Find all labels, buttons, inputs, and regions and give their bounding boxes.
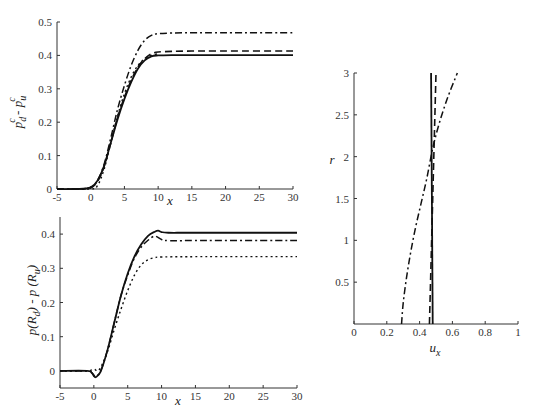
plot-top-left: -505101520253000.10.20.30.40.5	[38, 16, 299, 203]
x-tick-label: 20	[224, 390, 236, 402]
x-tick-label: -5	[55, 390, 65, 402]
x-tick-label: 0.8	[478, 326, 492, 338]
right-ylabel: r	[329, 152, 335, 167]
plot-right: 00.20.40.60.810.511.522.53	[335, 67, 521, 338]
plot-bottom-left: -505101520253000.10.20.30.4	[41, 217, 303, 402]
x-tick-label: 30	[292, 390, 304, 402]
y-tick-label: 0.3	[41, 262, 55, 274]
x-tick-label: -5	[52, 191, 62, 203]
axis-frame	[57, 22, 293, 189]
x-tick-label: 15	[190, 390, 202, 402]
y-tick-label: 2.5	[335, 109, 349, 121]
series-dotted	[57, 54, 158, 190]
y-tick-label: 0.2	[38, 116, 52, 128]
svg-text:p(Rd) - p (Ru): p(Rd) - p (Ru)	[24, 265, 42, 336]
x-tick-label: 10	[153, 191, 165, 203]
svg-text:pdc - puc: pdc - puc	[6, 96, 28, 129]
y-tick-label: 0	[47, 183, 53, 195]
x-tick-label: 25	[254, 191, 266, 203]
y-tick-label: 0.3	[38, 83, 52, 95]
y-tick-label: 0.1	[38, 150, 52, 162]
x-tick-label: 1	[515, 326, 521, 338]
y-tick-label: 0.4	[38, 49, 52, 61]
y-tick-label: 1.5	[335, 193, 349, 205]
top-left-ylabel: pdc - puc	[6, 96, 28, 129]
x-tick-label: 0.2	[380, 326, 394, 338]
x-tick-label: 0	[91, 390, 97, 402]
y-tick-label: 0.4	[41, 228, 55, 240]
x-tick-label: 0.6	[446, 326, 460, 338]
series-dotted	[60, 257, 297, 371]
bottom-left-ylabel: p(Rd) - p (Ru)	[24, 265, 42, 336]
series-dash-dot	[402, 73, 458, 324]
top-left-xlabel: x	[166, 193, 173, 208]
y-tick-label: 0.1	[41, 331, 55, 343]
x-tick-label: 0.4	[413, 326, 427, 338]
x-tick-label: 30	[288, 191, 300, 203]
figure: -505101520253000.10.20.30.40.5 -50510152…	[0, 0, 535, 419]
y-tick-label: 0	[50, 365, 56, 377]
y-tick-label: 2	[344, 151, 350, 163]
x-tick-label: 20	[220, 191, 232, 203]
right-xlabel: ux	[430, 340, 442, 358]
y-tick-label: 1	[344, 234, 350, 246]
y-tick-label: 0.5	[38, 16, 52, 28]
y-tick-label: 0.5	[335, 276, 349, 288]
x-tick-label: 15	[186, 191, 198, 203]
x-tick-label: 10	[156, 390, 168, 402]
series-solid	[57, 55, 293, 189]
series-dash-dot	[57, 33, 293, 189]
bottom-left-xlabel: x	[174, 393, 181, 408]
y-tick-label: 0.2	[41, 297, 55, 309]
x-tick-label: 25	[258, 390, 270, 402]
x-tick-label: 5	[122, 191, 128, 203]
series-dashed	[57, 51, 293, 189]
x-tick-label: 0	[88, 191, 94, 203]
series-solid	[60, 231, 297, 378]
axis-frame	[354, 73, 518, 324]
x-tick-label: 0	[351, 326, 357, 338]
axis-frame	[60, 217, 297, 388]
x-tick-label: 5	[125, 390, 131, 402]
y-tick-label: 3	[344, 67, 350, 79]
